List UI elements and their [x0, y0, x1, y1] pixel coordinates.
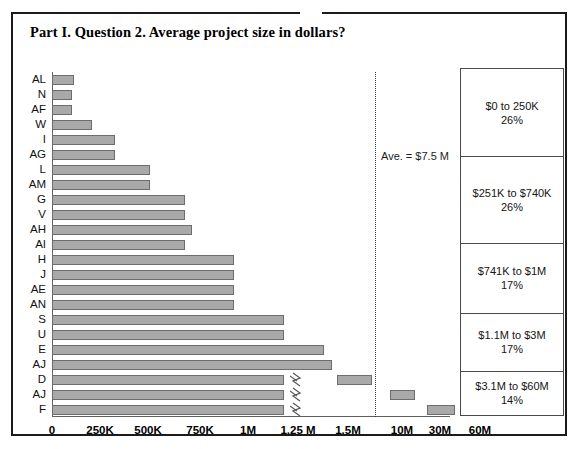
legend-range: $3.1M to $60M [475, 379, 548, 393]
bar [52, 345, 324, 355]
x-tick-label: 500K [134, 424, 162, 436]
frame-nick [300, 8, 322, 16]
legend-percent: 14% [501, 393, 523, 407]
category-label: G [8, 194, 46, 205]
category-label: V [8, 209, 46, 220]
x-tick-label: 30M [429, 424, 451, 436]
x-axis-line [52, 416, 450, 417]
bar [52, 240, 185, 250]
category-label: AG [8, 149, 46, 160]
bar [52, 90, 72, 100]
category-label: U [8, 329, 46, 340]
bar [52, 150, 115, 160]
category-label: W [8, 119, 46, 130]
bar-segment-beyond-break [390, 390, 415, 400]
legend-box: $0 to 250K26%$251K to $740K26%$741K to $… [460, 68, 564, 416]
x-tick-label: 0 [49, 424, 55, 436]
legend-percent: 17% [501, 278, 523, 292]
bar [52, 225, 192, 235]
category-label: AJ [8, 389, 46, 400]
category-label: J [8, 269, 46, 280]
bar [52, 390, 284, 400]
bar-segment-beyond-break [337, 375, 372, 385]
category-label: D [8, 374, 46, 385]
legend-cell: $3.1M to $60M14% [461, 371, 563, 415]
bar [52, 270, 234, 280]
legend-percent: 26% [501, 200, 523, 214]
category-label: AH [8, 224, 46, 235]
category-label: AM [8, 179, 46, 190]
category-label: N [8, 89, 46, 100]
x-tick-label: 1.25 M [280, 424, 315, 436]
legend-cell: $1.1M to $3M17% [461, 313, 563, 371]
category-label: AL [8, 74, 46, 85]
x-tick-label: 1.5M [335, 424, 361, 436]
axis-break-icon [290, 387, 304, 403]
bar [52, 300, 234, 310]
bar [52, 255, 234, 265]
bar [52, 165, 150, 175]
x-tick-label: 10M [391, 424, 413, 436]
page-title: Part I. Question 2. Average project size… [30, 24, 346, 41]
legend-range: $0 to 250K [485, 99, 538, 113]
bar-chart-plot-area: ALNAFWIAGLAMGVAHAIHJAEANSUEAJDAJF Ave. =… [52, 72, 450, 417]
category-label: AF [8, 104, 46, 115]
legend-percent: 17% [501, 342, 523, 356]
bar [52, 315, 284, 325]
category-label: L [8, 164, 46, 175]
bar [52, 360, 332, 370]
bar [52, 405, 284, 415]
bar [52, 285, 234, 295]
average-line [375, 72, 376, 417]
bar [52, 105, 72, 115]
bar [52, 75, 74, 85]
category-label: F [8, 404, 46, 415]
bar [52, 330, 284, 340]
category-label: AI [8, 239, 46, 250]
category-label: H [8, 254, 46, 265]
bar [52, 375, 284, 385]
legend-cell: $741K to $1M17% [461, 243, 563, 313]
bar [52, 195, 185, 205]
category-label: I [8, 134, 46, 145]
bar [52, 180, 150, 190]
legend-range: $741K to $1M [478, 264, 547, 278]
bar [52, 120, 92, 130]
category-label: S [8, 314, 46, 325]
screenshot-root: Part I. Question 2. Average project size… [0, 0, 580, 449]
x-tick-label: 250K [86, 424, 114, 436]
legend-range: $1.1M to $3M [478, 328, 545, 342]
category-label: AJ [8, 359, 46, 370]
x-tick-label: 750K [186, 424, 214, 436]
legend-percent: 26% [501, 113, 523, 127]
axis-break-icon [290, 402, 304, 418]
bar [52, 135, 115, 145]
category-label: AN [8, 299, 46, 310]
average-label: Ave. = $7.5 M [381, 150, 449, 162]
legend-cell: $0 to 250K26% [461, 69, 563, 156]
axis-break-icon [290, 372, 304, 388]
bar [52, 210, 185, 220]
legend-cell: $251K to $740K26% [461, 156, 563, 243]
x-tick-label: 1M [240, 424, 256, 436]
legend-range: $251K to $740K [473, 186, 552, 200]
category-label: AE [8, 284, 46, 295]
category-label: E [8, 344, 46, 355]
bar-segment-beyond-break [427, 405, 455, 415]
x-tick-label: 60M [469, 424, 491, 436]
